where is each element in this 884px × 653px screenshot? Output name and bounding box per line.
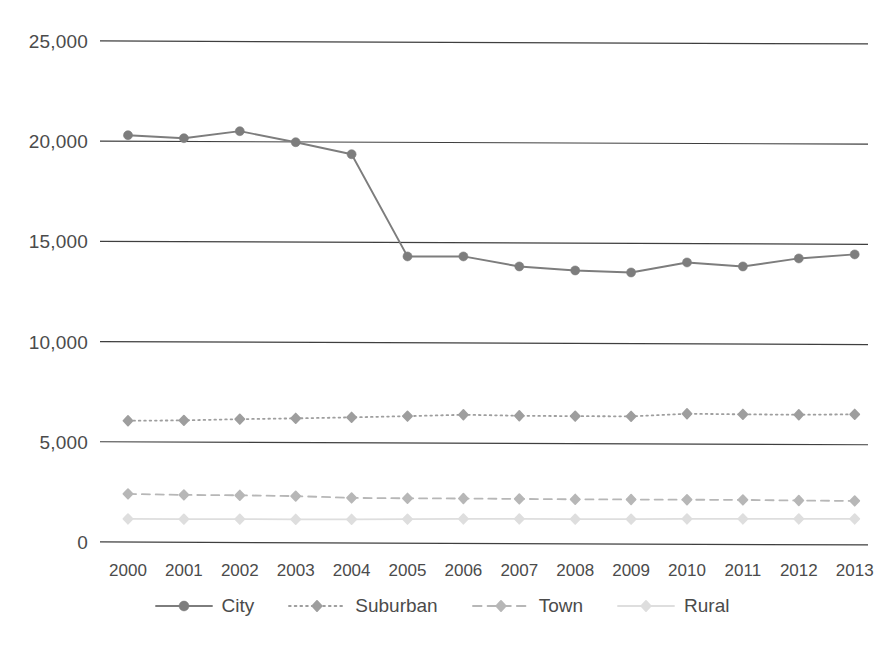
legend-swatch-city <box>155 597 213 615</box>
data-point <box>403 514 412 524</box>
data-point <box>738 514 747 524</box>
gridline-15000 <box>100 241 868 244</box>
data-point <box>179 514 188 524</box>
data-point <box>403 493 412 503</box>
legend-item-rural[interactable]: Rural <box>617 596 729 615</box>
data-point <box>403 252 412 261</box>
data-point <box>571 514 580 524</box>
y-axis-label-25000: 25,000 <box>29 32 88 51</box>
chart-legend: CitySuburbanTownRural <box>0 596 884 615</box>
data-point <box>627 412 636 422</box>
x-axis-label-2009: 2009 <box>603 562 659 579</box>
data-point <box>123 514 132 524</box>
gridline-25000 <box>100 41 868 44</box>
legend-item-town[interactable]: Town <box>472 596 583 615</box>
data-point <box>347 493 356 503</box>
data-point <box>347 515 356 525</box>
gridline-5000 <box>100 442 868 445</box>
data-point <box>850 410 859 420</box>
legend-label: City <box>222 596 255 615</box>
data-point <box>291 515 300 525</box>
data-point <box>291 414 300 424</box>
data-point <box>627 268 636 277</box>
data-point <box>123 489 132 499</box>
data-point <box>738 262 747 271</box>
x-axis-label-2001: 2001 <box>156 562 212 579</box>
data-point <box>627 495 636 505</box>
legend-marker <box>179 601 189 611</box>
data-point <box>682 409 691 419</box>
series-line-city <box>128 131 855 272</box>
data-point <box>794 496 803 506</box>
x-axis-label-2006: 2006 <box>435 562 491 579</box>
series-town <box>123 489 859 506</box>
data-point <box>123 416 132 426</box>
data-point <box>738 495 747 505</box>
data-point <box>850 496 859 506</box>
data-point <box>403 411 412 421</box>
y-axis-label-20000: 20,000 <box>29 132 88 151</box>
x-axis-label-2000: 2000 <box>100 562 156 579</box>
x-axis-label-2002: 2002 <box>212 562 268 579</box>
legend-marker <box>641 600 651 610</box>
data-point <box>850 250 859 259</box>
data-point <box>683 258 692 267</box>
x-axis-label-2010: 2010 <box>659 562 715 579</box>
data-point <box>235 127 244 136</box>
x-axis-label-2011: 2011 <box>715 562 771 579</box>
data-point <box>738 410 747 420</box>
data-point <box>124 131 133 140</box>
y-axis-label-0: 0 <box>77 533 88 552</box>
data-point <box>571 411 580 421</box>
gridline-10000 <box>100 342 868 345</box>
legend-marker <box>312 600 322 610</box>
data-point <box>291 138 300 147</box>
data-point <box>459 514 468 524</box>
data-point <box>459 252 468 261</box>
data-point <box>571 266 580 275</box>
x-axis-label-2007: 2007 <box>491 562 547 579</box>
data-point <box>179 490 188 500</box>
data-point <box>794 514 803 524</box>
legend-label: Rural <box>684 596 729 615</box>
data-point <box>515 514 524 524</box>
data-point <box>515 494 524 504</box>
data-point <box>459 494 468 504</box>
data-point <box>291 491 300 501</box>
x-axis-label-2003: 2003 <box>268 562 324 579</box>
data-point <box>794 410 803 420</box>
series-suburban <box>123 409 859 426</box>
legend-item-city[interactable]: City <box>155 596 255 615</box>
x-axis-label-2005: 2005 <box>380 562 436 579</box>
y-axis-label-5000: 5,000 <box>39 433 88 452</box>
gridline-0 <box>100 542 868 545</box>
x-axis-label-2008: 2008 <box>547 562 603 579</box>
data-point <box>347 413 356 423</box>
line-chart: 05,00010,00015,00020,00025,000 200020012… <box>0 0 884 653</box>
data-point <box>347 150 356 159</box>
data-point <box>179 416 188 426</box>
data-point <box>235 490 244 500</box>
legend-swatch-town <box>472 597 530 615</box>
gridline-20000 <box>100 141 868 144</box>
data-point <box>850 514 859 524</box>
series-rural <box>123 514 859 524</box>
data-point <box>515 411 524 421</box>
data-point <box>459 410 468 420</box>
plot-area <box>0 0 884 653</box>
y-axis-label-10000: 10,000 <box>29 333 88 352</box>
legend-item-suburban[interactable]: Suburban <box>288 596 437 615</box>
data-point <box>682 514 691 524</box>
legend-label: Suburban <box>355 596 437 615</box>
data-point <box>235 514 244 524</box>
gridlines <box>100 41 868 545</box>
x-axis-label-2004: 2004 <box>324 562 380 579</box>
x-axis-label-2012: 2012 <box>771 562 827 579</box>
legend-swatch-suburban <box>288 597 346 615</box>
data-point <box>235 414 244 424</box>
y-axis-label-15000: 15,000 <box>29 232 88 251</box>
data-point <box>627 514 636 524</box>
data-point <box>794 254 803 263</box>
legend-marker <box>496 600 506 610</box>
data-point <box>179 134 188 143</box>
